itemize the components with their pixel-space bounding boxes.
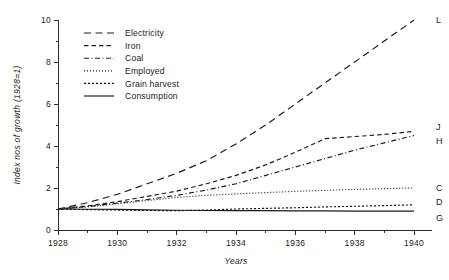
y-tick-label: 2 xyxy=(46,183,51,193)
legend: ElectricityIronCoalEmployedGrain harvest… xyxy=(84,28,180,101)
x-tick-label: 1936 xyxy=(285,238,305,248)
legend-label-electricity: Electricity xyxy=(125,28,164,38)
end-label-G: G xyxy=(436,213,443,223)
y-tick-label: 0 xyxy=(46,225,51,235)
series-line-coal xyxy=(58,136,414,210)
line-chart: 02468101928193019321934193619381940 LJHC… xyxy=(0,0,449,280)
x-tick-label: 1928 xyxy=(48,238,68,248)
series-end-labels: LJHCDG xyxy=(436,15,443,222)
x-tick-label: 1938 xyxy=(345,238,365,248)
series-line-employed xyxy=(58,188,414,209)
legend-label-grain-harvest: Grain harvest xyxy=(125,79,180,89)
chart-canvas: 02468101928193019321934193619381940 LJHC… xyxy=(0,0,449,280)
y-tick-label: 8 xyxy=(46,57,51,67)
series-lines xyxy=(58,20,414,211)
x-tick-label: 1932 xyxy=(167,238,187,248)
y-tick-label: 4 xyxy=(46,141,51,151)
x-tick-label: 1930 xyxy=(107,238,127,248)
end-label-C: C xyxy=(436,183,443,193)
x-tick-label: 1934 xyxy=(226,238,246,248)
legend-label-employed: Employed xyxy=(125,66,165,76)
legend-label-coal: Coal xyxy=(125,53,143,63)
end-label-J: J xyxy=(436,122,441,132)
end-label-D: D xyxy=(436,197,443,207)
legend-label-iron: Iron xyxy=(125,41,141,51)
series-line-iron xyxy=(58,131,414,209)
series-line-electricity xyxy=(58,20,414,209)
x-tick-label: 1940 xyxy=(404,238,424,248)
y-tick-label: 6 xyxy=(46,99,51,109)
y-axis-title: Index nos of growth (1928=1) xyxy=(12,65,22,184)
end-label-H: H xyxy=(436,136,443,146)
y-tick-label: 10 xyxy=(41,15,51,25)
axes: 02468101928193019321934193619381940 xyxy=(41,15,432,248)
end-label-L: L xyxy=(436,15,441,25)
legend-label-consumption: Consumption xyxy=(125,91,178,101)
x-axis-title: Years xyxy=(224,256,248,266)
